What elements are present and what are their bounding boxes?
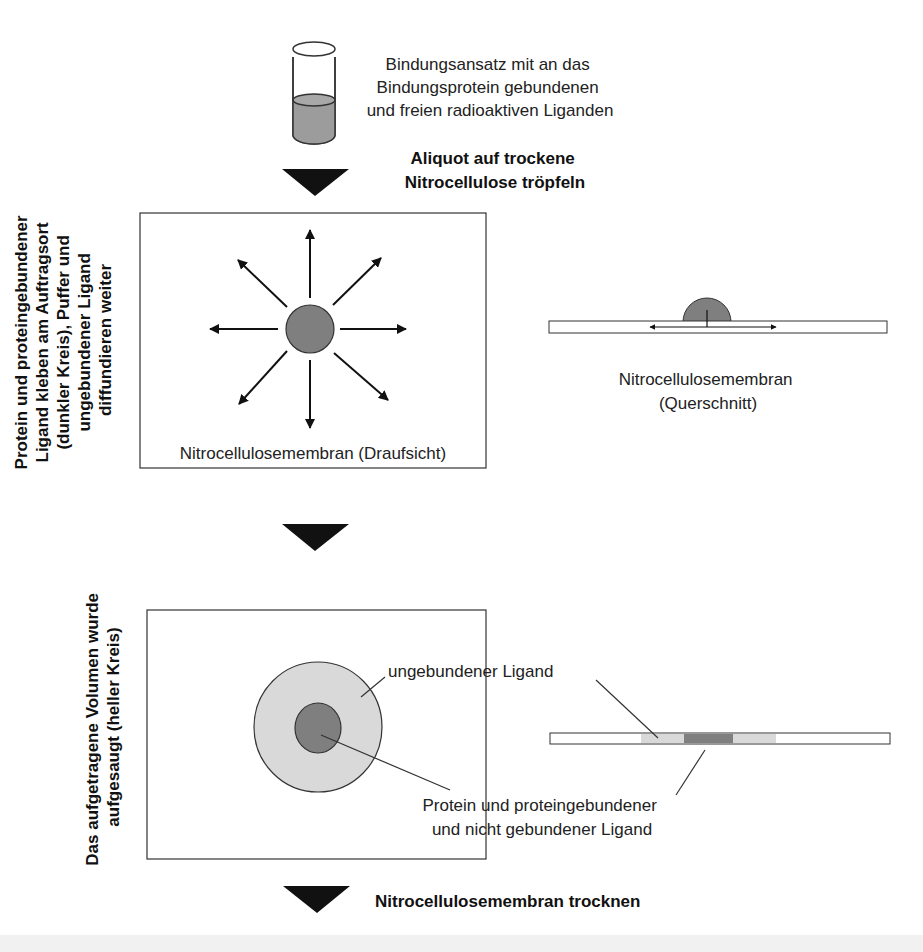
step-arrow-2-icon [282, 524, 349, 551]
applied-spot [286, 305, 334, 353]
cross-section-absorbed [550, 733, 890, 744]
top-view-caption: Nitrocellulosemembran (Draufsicht) [180, 444, 446, 463]
step3-side-label: Das aufgetragene Volumen wurde aufgesaug… [83, 588, 123, 865]
callout-line-cross-unbound [596, 680, 658, 738]
callout-unbound-label: ungebundener Ligand [388, 662, 553, 681]
step2-side-label: Protein und proteingebundener Ligand kle… [12, 211, 115, 470]
step-arrow-3-icon [283, 886, 350, 913]
cross-section-membrane [549, 298, 887, 333]
bottom-band [0, 935, 923, 952]
step4-action-label: Nitrocellulosemembran trocknen [375, 892, 640, 911]
tube-label: Bindungsansatz mit an das Bindungsprotei… [367, 55, 614, 120]
step-arrow-1-icon [282, 169, 349, 196]
dark-circle-bound [295, 703, 341, 753]
step1-action-label: Aliquot auf trockene Nitrocellulose tröp… [405, 149, 585, 192]
cross-section-caption: Nitrocellulosemembran (Querschnitt) [619, 370, 798, 413]
callout-line-cross-bound [676, 750, 705, 795]
test-tube-icon [293, 42, 335, 144]
binding-assay-diagram: Bindungsansatz mit an das Bindungsprotei… [0, 0, 923, 952]
